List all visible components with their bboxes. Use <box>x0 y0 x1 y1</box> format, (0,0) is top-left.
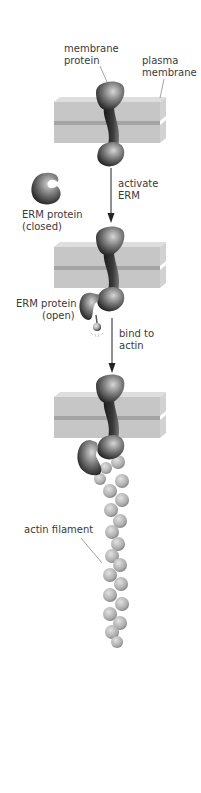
label-activate-1: activate <box>118 178 158 189</box>
stage-3: actin filament <box>24 375 166 648</box>
label-plasma-membrane-2: membrane <box>142 67 197 78</box>
erm-protein-closed: ERM protein (closed) <box>22 173 83 232</box>
label-plasma-membrane-1: plasma <box>142 55 178 66</box>
leader-line <box>160 79 164 98</box>
label-actin-filament: actin filament <box>24 524 93 535</box>
erm-activation-diagram: membrane protein plasma membrane ERM pro… <box>0 0 201 793</box>
arrow-activate: activate ERM <box>108 168 159 223</box>
label-bind-2: actin <box>119 340 144 351</box>
leader-line <box>100 66 107 82</box>
leader-line <box>81 538 102 563</box>
actin-filament <box>94 455 129 648</box>
label-membrane-protein-1: membrane <box>64 43 119 54</box>
label-bind-1: bind to <box>119 328 154 339</box>
label-activate-2: ERM <box>118 190 140 201</box>
stage-1: membrane protein plasma membrane <box>54 43 197 166</box>
label-erm-closed-1: ERM protein <box>22 209 83 220</box>
erm-protein-bound <box>78 440 102 475</box>
label-erm-open-2: (open) <box>42 310 75 321</box>
label-erm-open-1: ERM protein <box>16 298 77 309</box>
label-erm-closed-2: (closed) <box>22 221 62 232</box>
arrow-bind: bind to actin <box>109 318 155 373</box>
label-membrane-protein-2: protein <box>64 55 100 66</box>
